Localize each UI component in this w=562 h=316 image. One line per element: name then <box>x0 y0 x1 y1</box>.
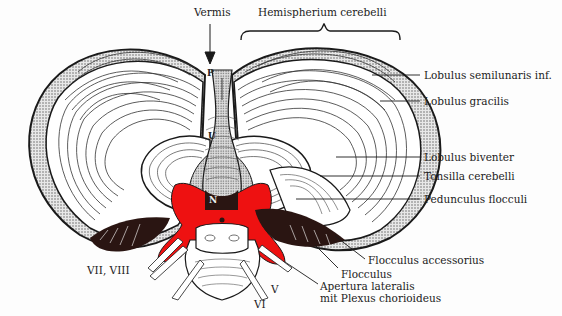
label-pedunculus-flocculi: Pedunculus flocculi <box>424 193 527 205</box>
vermis-letter-p: P <box>207 68 214 78</box>
label-vermis: Vermis <box>194 6 231 18</box>
label-flocculus-accessorius: Flocculus accessorius <box>368 254 484 266</box>
label-nerve-v: V <box>271 283 279 295</box>
label-lobulus-gracilis: Lobulus gracilis <box>424 95 509 107</box>
label-mit-plexus-chorioideus: mit Plexus chorioideus <box>320 292 441 304</box>
label-hemispherium-cerebelli: Hemispherium cerebelli <box>258 6 387 18</box>
vermis-letter-n: N <box>209 195 217 205</box>
vermis-pointer <box>205 24 215 64</box>
label-lobulus-semilunaris-inf: Lobulus semilunaris inf. <box>424 69 552 81</box>
label-tonsilla-cerebelli: Tonsilla cerebelli <box>424 170 515 182</box>
label-nerve-vi: VI <box>254 298 266 310</box>
vermis-letter-u: U <box>208 131 216 141</box>
hemisphere-brace <box>241 24 400 40</box>
label-lobulus-biventer: Lobulus biventer <box>424 151 514 163</box>
label-nerve-vii-viii: VII, VIII <box>87 264 130 276</box>
label-apertura-lateralis: Apertura lateralis <box>320 280 415 292</box>
label-flocculus: Flocculus <box>341 268 392 280</box>
